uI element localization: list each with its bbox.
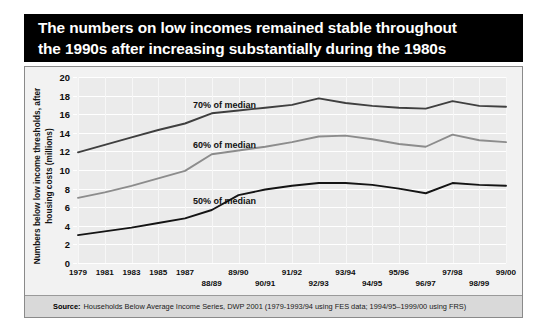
y-tick-mark bbox=[73, 114, 77, 115]
series-line-60-of-median bbox=[78, 135, 506, 198]
x-tick-label: 95/96 bbox=[389, 268, 409, 277]
y-tick-mark bbox=[73, 244, 77, 245]
x-tick-label: 91/92 bbox=[282, 268, 302, 277]
y-tick-mark bbox=[73, 170, 77, 171]
x-tick-label: 89/90 bbox=[228, 268, 248, 277]
x-tick-label: 1985 bbox=[149, 268, 167, 277]
chart-title-banner: The numbers on low incomes remained stab… bbox=[24, 14, 523, 62]
y-tick-mark bbox=[73, 189, 77, 190]
y-tick-label: 10 bbox=[48, 165, 70, 176]
y-tick-mark bbox=[73, 263, 77, 264]
y-tick-mark bbox=[73, 226, 77, 227]
y-tick-label: 14 bbox=[48, 127, 70, 138]
page-title-line-2: the 1990s after increasing substantially… bbox=[38, 38, 523, 59]
x-tick-label: 98/99 bbox=[469, 279, 489, 288]
x-tick-label: 96/97 bbox=[416, 279, 436, 288]
y-tick-label: 18 bbox=[48, 90, 70, 101]
series-line-70-of-median bbox=[78, 98, 506, 152]
x-tick-label: 97/98 bbox=[442, 268, 462, 277]
x-tick-label: 1981 bbox=[96, 268, 114, 277]
plot-area: 70% of median60% of median50% of median bbox=[78, 77, 506, 263]
y-tick-label: 2 bbox=[48, 239, 70, 250]
page-title-line-1: The numbers on low incomes remained stab… bbox=[38, 17, 523, 38]
series-annotation: 70% of median bbox=[193, 100, 256, 110]
gridline-x-99-00 bbox=[506, 77, 507, 263]
y-tick-label: 0 bbox=[48, 258, 70, 269]
y-tick-label: 20 bbox=[48, 72, 70, 83]
series-lines bbox=[78, 77, 506, 263]
y-tick-mark bbox=[73, 151, 77, 152]
y-tick-label: 16 bbox=[48, 109, 70, 120]
series-annotation: 60% of median bbox=[193, 140, 256, 150]
source-label: Source: bbox=[53, 302, 81, 311]
y-tick-label: 8 bbox=[48, 183, 70, 194]
x-tick-label: 90/91 bbox=[255, 279, 275, 288]
x-tick-label: 1987 bbox=[176, 268, 194, 277]
gridline-y-0 bbox=[78, 263, 506, 264]
y-tick-label: 6 bbox=[48, 202, 70, 213]
y-tick-label: 4 bbox=[48, 220, 70, 231]
x-tick-label: 93/94 bbox=[335, 268, 355, 277]
x-tick-label: 1983 bbox=[122, 268, 140, 277]
source-strip: Source: Households Below Average Income … bbox=[25, 295, 522, 317]
source-text: Households Below Average Income Series, … bbox=[84, 302, 467, 311]
series-line-50-of-median bbox=[78, 183, 506, 235]
y-tick-mark bbox=[73, 77, 77, 78]
x-tick-label: 92/93 bbox=[309, 279, 329, 288]
chart-plate: Numbers below low income thresholds, aft… bbox=[24, 66, 523, 318]
y-tick-mark bbox=[73, 133, 77, 134]
x-tick-label: 88/89 bbox=[202, 279, 222, 288]
y-tick-label: 12 bbox=[48, 146, 70, 157]
x-tick-label: 99/00 bbox=[496, 268, 516, 277]
x-tick-label: 94/95 bbox=[362, 279, 382, 288]
x-tick-label: 1979 bbox=[69, 268, 87, 277]
y-tick-mark bbox=[73, 207, 77, 208]
series-annotation: 50% of median bbox=[193, 196, 256, 206]
chart-figure: The numbers on low incomes remained stab… bbox=[0, 0, 547, 332]
y-tick-mark bbox=[73, 96, 77, 97]
